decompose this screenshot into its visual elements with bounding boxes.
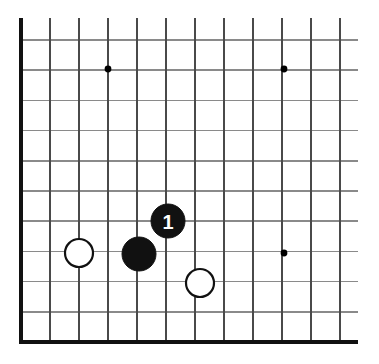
grid-vertical-lines (21, 18, 340, 342)
go-board-canvas[interactable]: 1 (0, 0, 379, 364)
go-stone-white[interactable] (65, 239, 93, 267)
go-diagram-figure: 1 (0, 0, 379, 364)
stone-disc[interactable] (186, 269, 214, 297)
stone-disc[interactable] (122, 237, 156, 271)
board-border-lines (19, 18, 358, 342)
grid-horizontal-lines (21, 40, 358, 342)
star-point-lower-right-icon (281, 250, 288, 257)
go-stone-black[interactable]: 1 (151, 204, 185, 238)
go-stone-white[interactable] (186, 269, 214, 297)
star-point-upper-left-icon (105, 66, 112, 73)
stone-move-number: 1 (162, 211, 173, 233)
stones-group[interactable]: 1 (65, 204, 214, 297)
stone-disc[interactable] (65, 239, 93, 267)
star-point-upper-right-icon (281, 66, 288, 73)
go-stone-black[interactable] (122, 237, 156, 271)
